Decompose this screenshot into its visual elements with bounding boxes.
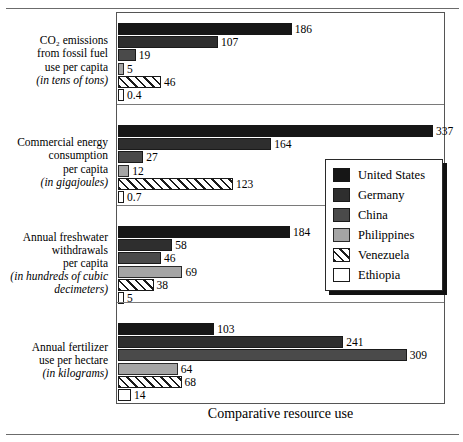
category-label-line: Annual freshwater (0, 231, 108, 244)
category-label-line: from fossil fuel (0, 47, 108, 60)
legend-item-philippines[interactable]: Philippines (333, 225, 442, 245)
category-label-unit: decimeters) (0, 283, 108, 296)
bar-fertilizer-use-china[interactable] (118, 349, 407, 361)
bar-co2-emissions-venezuela[interactable] (118, 76, 161, 88)
bottom-rule (6, 434, 459, 435)
legend: United StatesGermanyChinaPhilippinesVene… (325, 159, 443, 291)
bar-commercial-energy-philippines[interactable] (118, 165, 129, 177)
bar-value-label: 19 (136, 49, 151, 61)
bar-fertilizer-use-philippines[interactable] (118, 363, 178, 375)
bar-value-label: 27 (143, 151, 158, 163)
category-label-fertilizer-use: Annual fertilizeruse per hectare(in kilo… (0, 341, 108, 381)
category-label-unit: (in gigajoules) (0, 176, 108, 189)
bar-value-label: 68 (182, 376, 197, 388)
chart-figure: CO₂ emissionsfrom fossil fueluse per cap… (0, 0, 463, 442)
bar-co2-emissions-united-states[interactable] (118, 23, 292, 35)
category-label-line: withdrawals (0, 244, 108, 257)
bar-row: 309 (118, 349, 443, 361)
bar-value-label: 337 (433, 125, 453, 137)
bar-freshwater-withdrawals-china[interactable] (118, 252, 161, 264)
legend-label: China (358, 209, 388, 222)
bar-row: 46 (118, 76, 443, 88)
bar-freshwater-withdrawals-united-states[interactable] (118, 226, 290, 238)
bar-row: 14 (118, 389, 443, 401)
bar-fertilizer-use-ethiopia[interactable] (118, 389, 131, 401)
category-label-line: CO₂ emissions (0, 34, 108, 47)
legend-label: Germany (358, 189, 405, 202)
category-label-line: Annual fertilizer (0, 341, 108, 354)
category-label-line: consumption (0, 149, 108, 162)
bar-row: 68 (118, 376, 443, 388)
bar-value-label: 241 (343, 336, 363, 348)
bar-value-label: 186 (292, 23, 312, 35)
legend-label: Philippines (358, 229, 414, 242)
bar-row: 107 (118, 36, 443, 48)
legend-swatch-icon (333, 208, 350, 222)
bar-fertilizer-use-united-states[interactable] (118, 323, 214, 335)
bar-value-label: 12 (129, 165, 144, 177)
bar-value-label: 103 (214, 323, 234, 335)
bar-value-label: 5 (124, 63, 133, 75)
category-label-commercial-energy: Commercial energyconsumptionper capita(i… (0, 136, 108, 189)
legend-swatch-icon (333, 168, 350, 182)
category-label-unit: (in hundreds of cubic (0, 270, 108, 283)
bar-freshwater-withdrawals-philippines[interactable] (118, 266, 182, 278)
category-label-unit: (in kilograms) (0, 367, 108, 380)
category-label-freshwater-withdrawals: Annual freshwaterwithdrawalsper capita(i… (0, 231, 108, 297)
bar-co2-emissions-china[interactable] (118, 49, 136, 61)
category-label-unit: (in tens of tons) (0, 74, 108, 87)
legend-swatch-icon (333, 248, 350, 262)
bar-value-label: 123 (233, 178, 253, 190)
bar-row: 103 (118, 323, 443, 335)
bar-commercial-energy-germany[interactable] (118, 138, 271, 150)
bar-freshwater-withdrawals-germany[interactable] (118, 239, 172, 251)
bar-row: 64 (118, 363, 443, 375)
category-label-line: per capita (0, 257, 108, 270)
legend-label: United States (358, 169, 425, 182)
bar-value-label: 0.4 (124, 89, 141, 101)
bar-row: 19 (118, 49, 443, 61)
category-label-line: use per capita (0, 61, 108, 74)
bar-value-label: 46 (161, 76, 176, 88)
category-label-column: CO₂ emissionsfrom fossil fueluse per cap… (0, 12, 113, 404)
bar-value-label: 64 (178, 363, 193, 375)
legend-item-china[interactable]: China (333, 205, 442, 225)
bar-fertilizer-use-germany[interactable] (118, 336, 343, 348)
legend-label: Venezuela (358, 249, 409, 262)
category-label-line: Commercial energy (0, 136, 108, 149)
bar-commercial-energy-china[interactable] (118, 151, 143, 163)
bar-commercial-energy-united-states[interactable] (118, 125, 433, 137)
category-label-line: use per hectare (0, 354, 108, 367)
bar-row: 241 (118, 336, 443, 348)
bar-commercial-energy-venezuela[interactable] (118, 178, 233, 190)
legend-swatch-icon (333, 268, 350, 282)
legend-item-germany[interactable]: Germany (333, 185, 442, 205)
bar-value-label: 107 (218, 36, 238, 48)
bar-value-label: 309 (407, 349, 427, 361)
bar-row: 0.4 (118, 89, 443, 101)
group-separator-3 (117, 302, 444, 303)
legend-item-venezuela[interactable]: Venezuela (333, 245, 442, 265)
bar-value-label: 0.7 (124, 191, 141, 203)
bar-value-label: 58 (172, 239, 187, 251)
bar-value-label: 14 (131, 389, 146, 401)
bar-fertilizer-use-venezuela[interactable] (118, 376, 182, 388)
bar-value-label: 69 (182, 266, 197, 278)
bar-freshwater-withdrawals-venezuela[interactable] (118, 279, 154, 291)
bar-row: 337 (118, 125, 443, 137)
legend-label: Ethiopia (358, 269, 400, 282)
bar-co2-emissions-germany[interactable] (118, 36, 218, 48)
legend-item-ethiopia[interactable]: Ethiopia (333, 265, 442, 285)
bar-value-label: 184 (290, 226, 310, 238)
bar-row: 186 (118, 23, 443, 35)
bar-value-label: 38 (154, 279, 169, 291)
legend-item-united-states[interactable]: United States (333, 165, 442, 185)
category-label-co2-emissions: CO₂ emissionsfrom fossil fueluse per cap… (0, 34, 108, 87)
legend-swatch-icon (333, 188, 350, 202)
category-label-line: per capita (0, 163, 108, 176)
bar-row: 5 (118, 63, 443, 75)
group-separator-1 (117, 104, 444, 105)
legend-swatch-icon (333, 228, 350, 242)
bar-row: 164 (118, 138, 443, 150)
chart-caption: Comparative resource use (116, 406, 445, 422)
